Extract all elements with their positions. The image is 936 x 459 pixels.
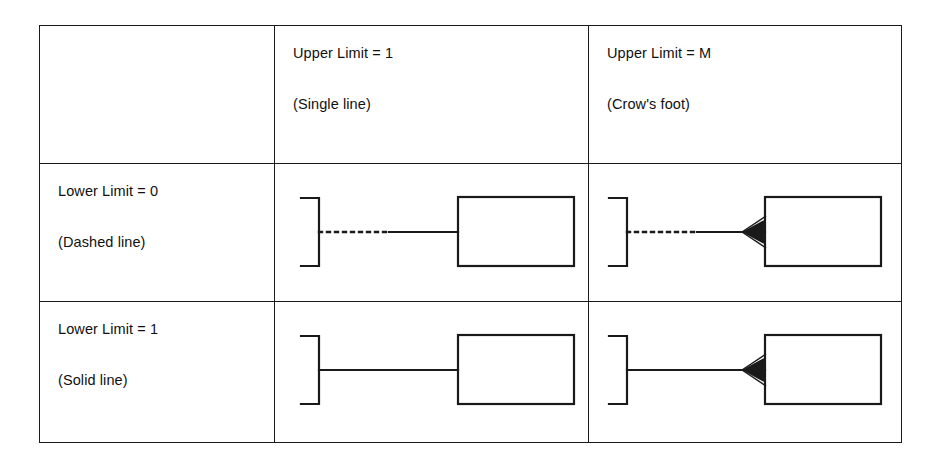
header-text-upper-limit-1: Upper Limit = 1 (Single line): [275, 26, 588, 111]
corner-blank-cell: [40, 26, 275, 164]
header-cell-upper-limit-1: Upper Limit = 1 (Single line): [275, 26, 589, 164]
row-header-text-lower-limit-1: Lower Limit = 1 (Solid line): [40, 302, 274, 387]
row-lower-limit-0-line1: Lower Limit = 0: [58, 184, 274, 199]
bracket-shape: [301, 336, 319, 404]
entity-rectangle: [458, 197, 574, 266]
table-header-row: Upper Limit = 1 (Single line) Upper Limi…: [40, 26, 902, 164]
header-text-upper-limit-m: Upper Limit = M (Crow's foot): [589, 26, 901, 111]
er-diagram-one-to-many: [589, 302, 901, 442]
crows-foot-icon: [742, 354, 766, 386]
notation-matrix-table: Upper Limit = 1 (Single line) Upper Limi…: [39, 25, 902, 443]
row-lower-limit-0-line2: (Dashed line): [58, 235, 274, 250]
diagram-cell-zero-to-many: [589, 164, 902, 302]
bracket-shape: [609, 336, 627, 404]
row-lower-limit-1-line2: (Solid line): [58, 373, 274, 388]
er-diagram-zero-to-one: [275, 164, 588, 301]
header-upper-limit-m-line1: Upper Limit = M: [607, 46, 901, 61]
bracket-shape: [301, 198, 319, 266]
entity-rectangle: [765, 335, 881, 404]
row-header-text-lower-limit-0: Lower Limit = 0 (Dashed line): [40, 164, 274, 249]
header-upper-limit-m-line2: (Crow's foot): [607, 97, 901, 112]
er-diagram-one-to-one: [275, 302, 588, 442]
crows-foot-icon: [742, 216, 766, 248]
diagram-cell-zero-to-one: [275, 164, 589, 302]
header-cell-upper-limit-m: Upper Limit = M (Crow's foot): [589, 26, 902, 164]
entity-rectangle: [458, 335, 574, 404]
header-upper-limit-1-line1: Upper Limit = 1: [293, 46, 588, 61]
diagram-cell-one-to-many: [589, 302, 902, 443]
header-upper-limit-1-line2: (Single line): [293, 97, 588, 112]
table-row: Lower Limit = 0 (Dashed line): [40, 164, 902, 302]
diagram-cell-one-to-one: [275, 302, 589, 443]
row-header-lower-limit-0: Lower Limit = 0 (Dashed line): [40, 164, 275, 302]
table-row: Lower Limit = 1 (Solid line): [40, 302, 902, 443]
row-header-lower-limit-1: Lower Limit = 1 (Solid line): [40, 302, 275, 443]
er-diagram-zero-to-many: [589, 164, 901, 301]
row-lower-limit-1-line1: Lower Limit = 1: [58, 322, 274, 337]
bracket-shape: [609, 198, 627, 266]
entity-rectangle: [765, 197, 881, 266]
